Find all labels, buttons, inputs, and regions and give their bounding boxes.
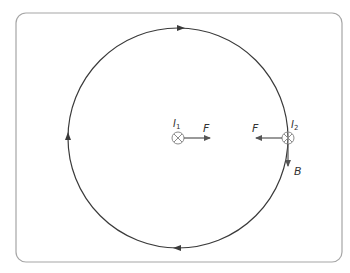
field-vector-b-label: B	[294, 165, 302, 178]
wire-i2-label: I2	[291, 119, 298, 132]
field-direction-arrow-top	[177, 25, 185, 31]
wire-i1-cross-icon	[172, 132, 184, 144]
wire-i1-label: I1	[173, 118, 180, 131]
force-label-wire1: F	[203, 122, 210, 135]
field-direction-arrow-left	[65, 132, 71, 140]
diagram-canvas: I1 F I2 F B	[0, 0, 350, 273]
force-label-wire2: F	[252, 122, 259, 135]
field-direction-arrow-bottom	[173, 245, 181, 251]
